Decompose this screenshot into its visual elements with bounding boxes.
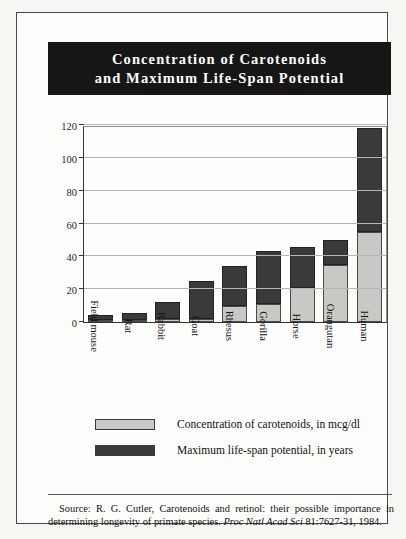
x-label-cell: Orangutan xyxy=(324,324,349,396)
y-tickmark-80 xyxy=(79,190,84,191)
x-label-rat: Rat xyxy=(123,319,134,334)
y-tickmark-100 xyxy=(79,157,84,158)
bar-segment-lifespan xyxy=(357,128,382,231)
legend-label: Maximum life-span potential, in years xyxy=(177,444,353,456)
x-label-human: Human xyxy=(359,311,370,342)
y-axis-tick-80: 80 xyxy=(41,186,77,197)
gridline-100 xyxy=(84,157,386,158)
x-label-cell: Rat xyxy=(121,324,146,396)
x-label-cell: Goat xyxy=(189,324,214,396)
y-axis-tick-labels: 020406080100120 xyxy=(41,117,81,323)
bar-segment-lifespan xyxy=(222,266,247,305)
bar-segment-lifespan xyxy=(290,247,315,288)
bar-segment-carotenoids xyxy=(357,232,382,322)
source-journal: Proc Natl Acad Sci xyxy=(223,516,302,527)
x-label-rhesus: Rhesus xyxy=(224,311,235,341)
source-citation: Source: R. G. Cutler, Carotenoids and re… xyxy=(48,502,394,529)
legend-item: Maximum life-span potential, in years xyxy=(95,444,395,456)
x-label-goat: Goat xyxy=(190,316,201,336)
x-label-cell: Field mouse xyxy=(87,324,112,396)
chart-title-banner: Concentration of Carotenoids and Maximum… xyxy=(48,42,391,95)
y-axis-tick-60: 60 xyxy=(41,219,77,230)
chart-plot-wrapper: 020406080100120 Field mouseRatRabbitGoat… xyxy=(41,117,397,389)
y-tickmark-20 xyxy=(79,288,84,289)
y-tickmark-40 xyxy=(79,255,84,256)
gridline-20 xyxy=(84,288,386,289)
x-label-rabbit: Rabbit xyxy=(156,312,167,340)
source-divider xyxy=(48,494,392,495)
bar-segment-lifespan xyxy=(256,251,281,304)
y-axis-tick-20: 20 xyxy=(41,285,77,296)
x-label-field-mouse: Field mouse xyxy=(89,300,100,352)
gridline-120 xyxy=(84,124,386,125)
y-tickmark-120 xyxy=(79,124,84,125)
legend-label: Concentration of carotenoids, in mcg/dl xyxy=(177,418,360,430)
y-axis-tick-0: 0 xyxy=(41,318,77,329)
gridline-80 xyxy=(84,190,386,191)
x-label-orangutan: Orangutan xyxy=(325,304,336,348)
legend-item: Concentration of carotenoids, in mcg/dl xyxy=(95,418,395,430)
x-label-cell: Horse xyxy=(290,324,315,396)
x-axis-category-labels: Field mouseRatRabbitGoatRhesusGorillaHor… xyxy=(83,324,387,396)
chart-legend: Concentration of carotenoids, in mcg/dlM… xyxy=(95,418,395,470)
legend-swatch-carotenoids xyxy=(95,419,155,430)
y-tickmark-0 xyxy=(79,321,84,322)
y-axis-tick-100: 100 xyxy=(41,153,77,164)
x-label-cell: Gorilla xyxy=(256,324,281,396)
y-axis-tick-40: 40 xyxy=(41,252,77,263)
y-axis-tick-120: 120 xyxy=(41,121,77,132)
chart-title-line-1: Concentration of Carotenoids xyxy=(112,50,327,69)
legend-swatch-lifespan xyxy=(95,445,155,456)
source-suffix: 81:7627-31, 1984. xyxy=(303,516,382,527)
bar-segment-lifespan xyxy=(189,281,214,319)
chart-title-line-2: and Maximum Life-Span Potential xyxy=(95,69,345,88)
gridline-40 xyxy=(84,255,386,256)
page-background: Concentration of Carotenoids and Maximum… xyxy=(0,0,406,539)
gridline-60 xyxy=(84,223,386,224)
page-frame: Concentration of Carotenoids and Maximum… xyxy=(16,12,388,524)
plot-area xyxy=(83,126,387,323)
x-label-gorilla: Gorilla xyxy=(258,311,269,341)
bar-segment-lifespan xyxy=(323,240,348,265)
x-label-horse: Horse xyxy=(291,313,302,338)
x-label-cell: Rhesus xyxy=(222,324,247,396)
y-tickmark-60 xyxy=(79,223,84,224)
x-label-cell: Rabbit xyxy=(155,324,180,396)
x-label-cell: Human xyxy=(358,324,383,396)
